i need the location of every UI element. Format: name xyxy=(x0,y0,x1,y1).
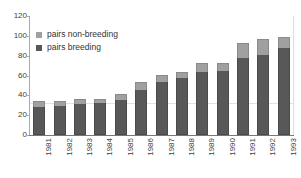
x-axis-tick-label: 1982 xyxy=(65,138,74,178)
bar-segment-pairs-breeding[interactable] xyxy=(196,72,208,135)
bar-segment-pairs-non-breeding[interactable] xyxy=(135,82,147,90)
plot-right-border xyxy=(293,16,294,136)
bar-segment-pairs-breeding[interactable] xyxy=(217,71,229,135)
x-axis-tick-label: 1987 xyxy=(167,138,176,178)
bar-group[interactable] xyxy=(237,43,249,135)
chart-legend: pairs non-breeding pairs breeding xyxy=(36,28,166,54)
bar-group[interactable] xyxy=(135,82,147,135)
bar-group[interactable] xyxy=(278,37,290,135)
y-axis-tick-label: 80 xyxy=(1,52,27,60)
y-axis-tick-label: 20 xyxy=(1,111,27,119)
bar-group[interactable] xyxy=(94,99,106,135)
legend-swatch-icon xyxy=(36,45,42,51)
bar-segment-pairs-non-breeding[interactable] xyxy=(217,63,229,71)
bar-group[interactable] xyxy=(74,99,86,135)
legend-swatch-icon xyxy=(36,32,42,38)
bar-group[interactable] xyxy=(257,39,269,135)
y-axis-tick-label: 0 xyxy=(1,131,27,139)
legend-item-pairs-non-breeding: pairs non-breeding xyxy=(36,28,166,41)
bar-group[interactable] xyxy=(217,63,229,135)
bar-segment-pairs-breeding[interactable] xyxy=(156,82,168,135)
bar-segment-pairs-non-breeding[interactable] xyxy=(156,75,168,83)
x-axis-tick-label: 1988 xyxy=(187,138,196,178)
y-axis-line xyxy=(29,16,30,136)
y-axis-tick-label: 60 xyxy=(1,72,27,80)
x-axis-tick-label: 1989 xyxy=(207,138,216,178)
legend-label: pairs breeding xyxy=(47,43,101,52)
y-axis-tick-label: 100 xyxy=(1,32,27,40)
bar-segment-pairs-breeding[interactable] xyxy=(54,106,66,135)
y-axis: 020406080100120 xyxy=(0,0,27,178)
bar-segment-pairs-breeding[interactable] xyxy=(135,90,147,135)
x-axis: 1981198219831984198519861987198819891990… xyxy=(29,136,294,178)
bar-group[interactable] xyxy=(156,75,168,135)
x-axis-tick-label: 1981 xyxy=(44,138,53,178)
bar-segment-pairs-breeding[interactable] xyxy=(94,103,106,135)
bar-segment-pairs-non-breeding[interactable] xyxy=(257,39,269,55)
bar-group[interactable] xyxy=(54,101,66,135)
bar-group[interactable] xyxy=(33,101,45,135)
x-axis-tick-label: 1985 xyxy=(126,138,135,178)
bar-segment-pairs-non-breeding[interactable] xyxy=(237,43,249,58)
bar-segment-pairs-breeding[interactable] xyxy=(257,55,269,135)
bar-segment-pairs-breeding[interactable] xyxy=(115,100,127,135)
bar-segment-pairs-breeding[interactable] xyxy=(33,107,45,135)
bar-segment-pairs-non-breeding[interactable] xyxy=(196,63,208,72)
bar-chart: 020406080100120 198119821983198419851986… xyxy=(0,0,301,178)
bar-group[interactable] xyxy=(196,63,208,135)
x-axis-tick-label: 1990 xyxy=(228,138,237,178)
bar-group[interactable] xyxy=(115,94,127,135)
legend-label: pairs non-breeding xyxy=(47,30,118,39)
x-axis-tick-label: 1984 xyxy=(105,138,114,178)
bar-segment-pairs-non-breeding[interactable] xyxy=(176,72,188,79)
legend-item-pairs-breeding: pairs breeding xyxy=(36,41,166,54)
x-axis-tick-label: 1986 xyxy=(146,138,155,178)
y-axis-tick-label: 40 xyxy=(1,91,27,99)
x-axis-tick-label: 1992 xyxy=(268,138,277,178)
y-axis-tick-label: 120 xyxy=(1,12,27,20)
bar-segment-pairs-breeding[interactable] xyxy=(176,78,188,135)
x-axis-tick-label: 1991 xyxy=(248,138,257,178)
bar-segment-pairs-breeding[interactable] xyxy=(237,58,249,135)
bar-segment-pairs-breeding[interactable] xyxy=(278,48,290,135)
bar-segment-pairs-non-breeding[interactable] xyxy=(278,37,290,48)
bar-segment-pairs-breeding[interactable] xyxy=(74,104,86,135)
x-axis-tick-label: 1993 xyxy=(289,138,298,178)
bar-group[interactable] xyxy=(176,72,188,135)
x-axis-tick-label: 1983 xyxy=(85,138,94,178)
